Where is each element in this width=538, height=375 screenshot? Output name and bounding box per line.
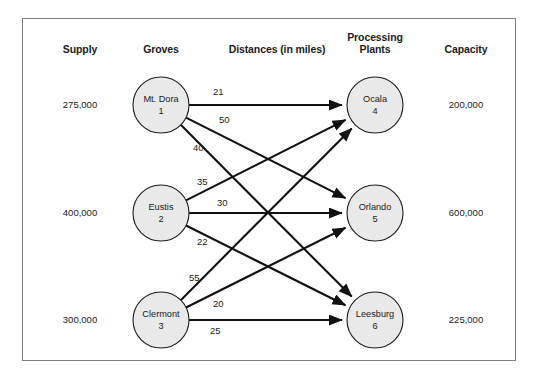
node-number-5: 5 <box>372 214 377 224</box>
edges-layer <box>181 105 352 320</box>
node-number-1: 1 <box>158 106 163 116</box>
node-circle-3 <box>133 292 189 348</box>
grove-node-3[interactable]: Clermont3 <box>133 292 189 348</box>
node-circle-4 <box>347 77 403 133</box>
node-label-5: Orlando <box>359 202 392 212</box>
distance-label-1-4: 21 <box>213 86 224 97</box>
node-circle-1 <box>133 77 189 133</box>
supply-value-1: 275,000 <box>40 99 120 110</box>
distance-label-2-4: 35 <box>197 176 208 187</box>
node-label-1: Mt. Dora <box>143 94 179 104</box>
node-circle-6 <box>347 292 403 348</box>
plant-node-6[interactable]: Leesburg6 <box>347 292 403 348</box>
grove-node-1[interactable]: Mt. Dora1 <box>133 77 189 133</box>
plant-node-5[interactable]: Orlando5 <box>347 185 403 241</box>
capacity-value-6: 225,000 <box>426 314 506 325</box>
edge-3-to-4 <box>181 128 352 300</box>
grove-node-2[interactable]: Eustis2 <box>133 185 189 241</box>
diagram-figure: Supply Groves Distances (in miles) Proce… <box>0 0 538 375</box>
distance-label-1-5: 50 <box>219 114 230 125</box>
node-circle-2 <box>133 185 189 241</box>
plant-node-4[interactable]: Ocala4 <box>347 77 403 133</box>
supply-value-3: 300,000 <box>40 314 120 325</box>
distance-label-3-6: 25 <box>210 325 221 336</box>
capacity-value-5: 600,000 <box>426 207 506 218</box>
distance-label-1-6: 40 <box>193 142 204 153</box>
node-number-3: 3 <box>158 321 163 331</box>
distance-label-3-4: 55 <box>189 272 200 283</box>
supply-value-2: 400,000 <box>40 207 120 218</box>
node-label-4: Ocala <box>363 94 388 104</box>
node-circle-5 <box>347 185 403 241</box>
distance-label-3-5: 20 <box>213 298 224 309</box>
node-number-4: 4 <box>372 106 377 116</box>
distance-label-2-6: 22 <box>197 236 208 247</box>
node-number-6: 6 <box>372 321 377 331</box>
node-number-2: 2 <box>158 214 163 224</box>
edge-1-to-6 <box>181 125 352 297</box>
node-label-2: Eustis <box>148 202 173 212</box>
node-label-6: Leesburg <box>356 309 394 319</box>
capacity-value-4: 200,000 <box>426 99 506 110</box>
node-label-3: Clermont <box>142 309 180 319</box>
distance-label-2-5: 30 <box>217 197 228 208</box>
